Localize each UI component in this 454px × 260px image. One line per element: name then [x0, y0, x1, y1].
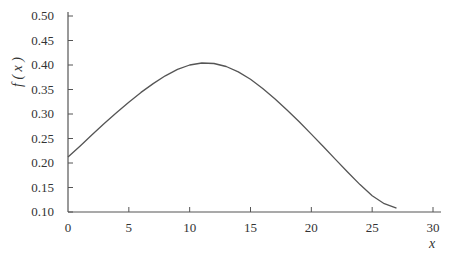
series-line: [68, 63, 397, 208]
y-tick-label: 0.45: [31, 33, 54, 48]
line-chart: 0.100.150.200.250.300.350.400.450.50 051…: [0, 0, 454, 260]
y-tick-label: 0.25: [31, 131, 54, 146]
y-tick-label: 0.10: [31, 204, 54, 219]
x-tick-label: 15: [244, 220, 257, 235]
y-axis-label: f ( x ): [10, 57, 26, 87]
y-tick-label: 0.35: [31, 82, 54, 97]
x-tick-label: 20: [305, 220, 318, 235]
x-axis-ticks: 051015202530: [65, 207, 440, 235]
y-tick-label: 0.20: [31, 155, 54, 170]
x-tick-label: 10: [183, 220, 196, 235]
axes: [68, 12, 441, 212]
series-group: [68, 63, 397, 208]
y-axis-ticks: 0.100.150.200.250.300.350.400.450.50: [31, 8, 73, 219]
x-tick-label: 25: [366, 220, 379, 235]
y-tick-label: 0.40: [31, 57, 54, 72]
y-tick-label: 0.30: [31, 106, 54, 121]
x-tick-label: 30: [427, 220, 440, 235]
x-axis-label: x: [428, 236, 436, 251]
y-tick-label: 0.15: [31, 180, 54, 195]
x-tick-label: 5: [126, 220, 133, 235]
x-tick-label: 0: [65, 220, 72, 235]
y-tick-label: 0.50: [31, 8, 54, 23]
